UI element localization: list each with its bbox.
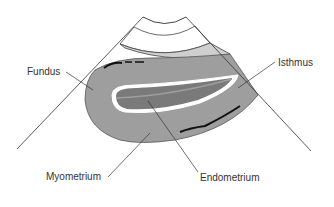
sector-near-field <box>120 17 230 59</box>
label-fundus: Fundus <box>27 67 60 77</box>
label-myometrium: Myometrium <box>46 172 101 182</box>
label-isthmus: Isthmus <box>278 58 313 68</box>
label-endometrium: Endometrium <box>200 173 259 183</box>
